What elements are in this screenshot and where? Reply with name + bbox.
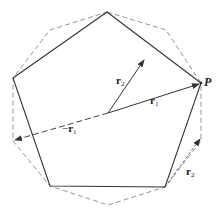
r2-sub: 2 xyxy=(121,80,125,88)
r1-sub: 1 xyxy=(155,100,159,108)
decagon-dashed-outline xyxy=(13,12,201,205)
r1-label: r1 xyxy=(150,95,158,106)
neg-r1-label: −r1 xyxy=(62,123,77,134)
r2-lower-label: r2 xyxy=(186,166,194,177)
pentagon-outline xyxy=(13,12,201,187)
vector-r2 xyxy=(108,60,144,113)
neg-r1-sub: 1 xyxy=(73,128,77,136)
pentagon-vector-diagram xyxy=(0,0,220,217)
r2-lower-sub: 2 xyxy=(191,171,195,179)
point-p-dot xyxy=(200,82,203,85)
r2-label: r2 xyxy=(116,75,124,86)
point-p-label: P xyxy=(204,76,211,88)
